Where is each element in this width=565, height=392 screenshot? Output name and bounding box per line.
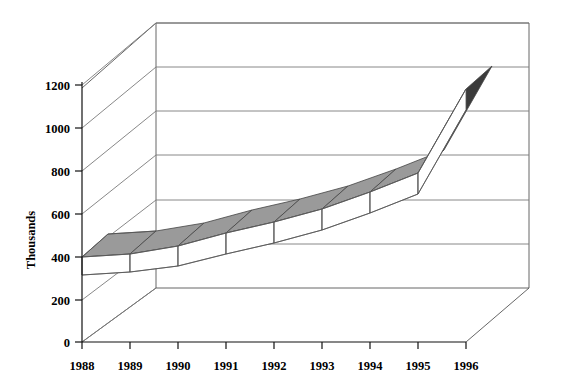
x-tick-label-1989: 1989	[118, 359, 143, 373]
gridlines	[82, 23, 529, 342]
y-axis-title: Thousands	[24, 211, 38, 270]
y-tick-label-600: 600	[51, 208, 70, 222]
chart-3d-frame	[82, 23, 529, 342]
x-tick-label-1988: 1988	[70, 359, 95, 373]
ribbon-front-face	[418, 89, 466, 194]
x-tick-label-1995: 1995	[406, 359, 431, 373]
x-tick-label-1990: 1990	[166, 359, 191, 373]
y-tick-label-200: 200	[51, 294, 70, 308]
x-tick-label-1991: 1991	[214, 359, 239, 373]
x-tick-label-1993: 1993	[310, 359, 335, 373]
x-tick-label-1996: 1996	[454, 359, 479, 373]
y-tick-label-800: 800	[51, 165, 70, 179]
x-tick-labels: 1988 1989 1990 1991 1992 1993 1994 1995 …	[70, 359, 479, 373]
gridline-1200	[82, 23, 529, 85]
y-tick-labels: 1200 1000 800 600 400 200 0	[45, 79, 70, 350]
x-tick-label-1994: 1994	[358, 359, 384, 373]
gridline-800	[82, 111, 529, 171]
y-tick-label-400: 400	[51, 251, 70, 265]
gridline-0	[82, 288, 156, 342]
y-tick-label-1200: 1200	[45, 79, 70, 93]
x-tick-marks	[82, 342, 466, 349]
y-tick-label-0: 0	[64, 336, 70, 350]
y-tick-marks	[75, 85, 82, 342]
chart-container: 1200 1000 800 600 400 200 0 1988 1989 19…	[0, 0, 565, 392]
ribbon-front-face	[82, 254, 130, 275]
floor-edge-right	[466, 288, 529, 342]
area-chart-3d: 1200 1000 800 600 400 200 0 1988 1989 19…	[0, 0, 565, 392]
x-tick-label-1992: 1992	[262, 359, 287, 373]
y-tick-label-1000: 1000	[45, 122, 70, 136]
